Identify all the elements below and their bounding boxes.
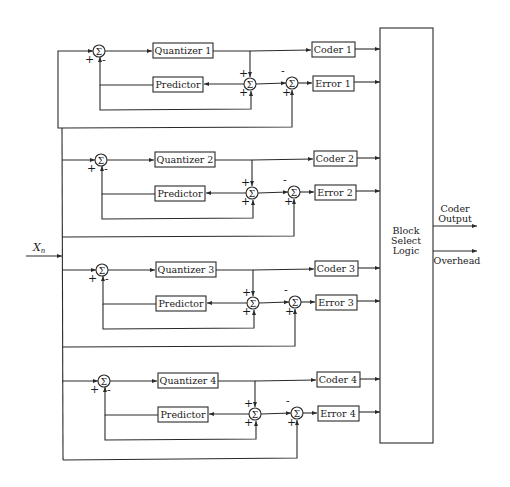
channel-2: Σ + - Quantizer 2 Coder 2 Σ + + Predicto… [62,151,380,237]
minus-sign: - [102,54,106,67]
minus-sign: - [105,273,109,286]
input-signal: Xn [26,241,62,256]
plus-sign: + [242,286,251,299]
plus-sign: + [285,305,294,318]
wire [102,166,155,194]
wire [103,276,156,304]
wire [255,380,316,381]
channel-4: Σ + - Quantizer 4 Coder 4 Σ + + Predicto… [62,372,380,460]
quantizer-label: Quantizer 3 [158,264,215,275]
input-bus [62,128,63,460]
quantizer-label: Quantizer 4 [160,375,217,386]
coder-label: Coder 1 [314,44,352,55]
minus-sign: - [281,65,285,78]
plus-sign: + [244,397,253,410]
plus-sign: + [284,195,293,208]
plus-sign: + [241,195,250,208]
wire [253,269,314,270]
error-label: Error 3 [318,297,353,308]
minus-sign: - [104,163,108,176]
wire [258,192,288,193]
coder-output-label-2: Output [438,213,472,224]
minus-sign: - [284,284,288,297]
overhead-output: Overhead [433,251,480,266]
predictor-label: Predictor [158,298,204,309]
plus-sign: + [87,162,96,175]
plus-sign: + [244,416,253,429]
error-label: Error 1 [315,78,350,89]
predictor-label: Predictor [155,79,201,90]
wire [252,159,313,160]
coder-label: Coder 3 [317,263,355,274]
error-label: Error 4 [320,408,355,419]
block-diagram: Xn Block Select Logic Coder Output Overh… [0,0,510,487]
block-select-line-3: Logic [393,245,419,256]
coder-output: Coder Output [433,203,477,226]
minus-sign: - [107,384,111,397]
predictor-label: Predictor [160,409,206,420]
plus-sign: + [90,383,99,396]
plus-sign: + [287,416,296,429]
channel-1: Σ + - Quantizer 1 Coder 1 Σ + + Predicto… [58,42,380,128]
quantizer-label: Quantizer 1 [155,45,212,56]
wire [250,50,311,51]
plus-sign: + [282,86,291,99]
coder-label: Coder 4 [319,374,357,385]
channel-3: Σ + - Quantizer 3 Coder 3 Σ + + Predicto… [62,261,380,347]
wire [105,387,158,415]
plus-sign: + [241,176,250,189]
minus-sign: - [283,174,287,187]
plus-sign: + [239,86,248,99]
wire [261,413,291,414]
coder-label: Coder 2 [316,153,354,164]
quantizer-label: Quantizer 2 [157,154,214,165]
predictor-label: Predictor [157,188,203,199]
plus-sign: + [85,53,94,66]
plus-sign: + [239,67,248,80]
overhead-label: Overhead [434,255,481,266]
wire [259,302,289,303]
plus-sign: + [242,305,251,318]
block-select-logic: Block Select Logic [380,28,433,443]
wire [100,57,153,85]
wire [256,83,286,84]
plus-sign: + [88,272,97,285]
error-label: Error 2 [317,187,352,198]
minus-sign: - [286,395,290,408]
input-label: Xn [32,241,46,255]
